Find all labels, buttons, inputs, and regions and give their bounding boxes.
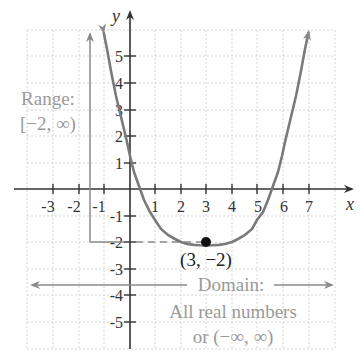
x-tick-label: 5 <box>254 198 262 215</box>
x-tick-label: 3 <box>202 198 210 215</box>
x-tick-label: 6 <box>280 198 288 215</box>
domain-description: All real numbers <box>169 301 297 322</box>
domain-interval: or (−∞, ∞) <box>193 326 274 348</box>
x-tick-label: -1 <box>92 198 105 215</box>
y-tick-label: 2 <box>115 128 123 145</box>
y-tick-label: -1 <box>110 208 123 225</box>
range-interval: [−2, ∞) <box>20 113 76 135</box>
y-axis-label: y <box>110 6 120 26</box>
domain-label: Domain: <box>198 274 265 295</box>
range-label: Range: <box>21 88 75 109</box>
x-tick-label: 2 <box>177 198 185 215</box>
x-tick-label: -2 <box>67 198 80 215</box>
vertex-point <box>201 237 211 247</box>
x-tick-labels: -3 -2 -1 1 2 3 4 5 6 7 <box>41 198 313 215</box>
y-tick-label: 5 <box>115 48 123 65</box>
y-tick-label: -5 <box>110 314 123 331</box>
x-tick-label: 1 <box>151 198 159 215</box>
x-tick-label: 4 <box>228 198 236 215</box>
vertex-label: (3, −2) <box>180 249 232 271</box>
y-tick-label: 1 <box>115 155 123 172</box>
y-tick-label: -4 <box>110 287 123 304</box>
graph-canvas: -3 -2 -1 1 2 3 4 5 6 7 5 4 3 2 1 -1 -2 -… <box>0 0 360 363</box>
y-tick-label: -3 <box>110 261 123 278</box>
x-axis-label: x <box>345 194 354 214</box>
x-tick-label: -3 <box>41 198 54 215</box>
x-tick-label: 7 <box>305 198 313 215</box>
y-tick-label: 4 <box>115 75 123 92</box>
